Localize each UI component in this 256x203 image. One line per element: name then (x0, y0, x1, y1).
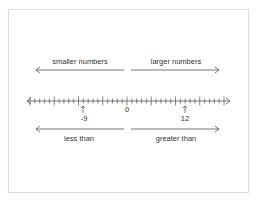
number-line-diagram (0, 0, 256, 203)
greater-than-arrow (131, 126, 219, 132)
marker-arrow-neg9 (81, 106, 85, 113)
less-than-label: less than (64, 134, 94, 143)
smaller-numbers-label: smaller numbers (52, 57, 107, 66)
larger-numbers-arrow (131, 67, 219, 73)
zero-label: 0 (125, 105, 129, 114)
less-than-arrow (36, 126, 124, 132)
marker-label-12: 12 (181, 114, 189, 123)
marker-label-neg9: -9 (81, 114, 88, 123)
greater-than-label: greater than (156, 134, 196, 143)
smaller-numbers-arrow (36, 67, 124, 73)
marker-arrow-12 (183, 106, 187, 113)
larger-numbers-label: larger numbers (151, 57, 201, 66)
